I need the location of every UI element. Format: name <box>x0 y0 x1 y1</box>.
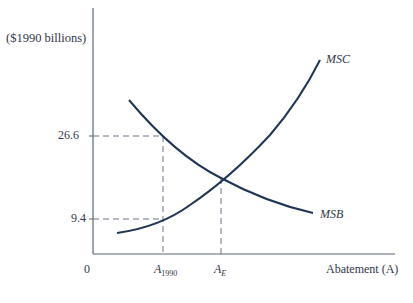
msc-label: MSC <box>326 52 350 67</box>
y-tick-9-4: 9.4 <box>71 211 86 226</box>
x-tick-ae: AE <box>214 262 226 278</box>
y-axis-label: ($1990 billions) <box>6 31 86 46</box>
msb-label: MSB <box>320 207 343 222</box>
y-tick-26-6: 26.6 <box>58 128 79 143</box>
x-tick-a1990: A1990 <box>154 262 177 278</box>
origin-label: 0 <box>84 262 90 277</box>
x-axis-label: Abatement (A) <box>326 262 398 277</box>
